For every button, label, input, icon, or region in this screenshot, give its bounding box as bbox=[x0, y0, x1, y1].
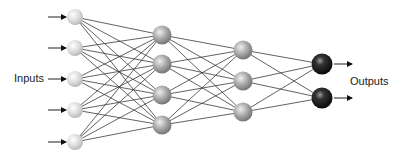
connection-edge bbox=[75, 125, 162, 142]
connection-edge bbox=[75, 35, 162, 142]
hidden-1-node-4 bbox=[153, 116, 172, 135]
hidden-2-node-1 bbox=[234, 41, 253, 60]
input-node-3 bbox=[67, 71, 83, 87]
input-node-4 bbox=[67, 102, 83, 118]
input-node-1 bbox=[67, 9, 83, 25]
io-arrows bbox=[48, 17, 352, 142]
hidden-1-node-1 bbox=[153, 26, 172, 45]
hidden-1-node-3 bbox=[153, 86, 172, 105]
hidden-2-node-2 bbox=[234, 72, 253, 91]
connection-edge bbox=[162, 35, 243, 81]
connection-edge bbox=[162, 35, 243, 50]
connection-edge bbox=[243, 64, 322, 81]
connection-edge bbox=[75, 48, 162, 64]
connection-edge bbox=[162, 35, 243, 112]
input-node-5 bbox=[67, 134, 83, 150]
input-node-2 bbox=[67, 40, 83, 56]
output-node-2 bbox=[312, 88, 333, 109]
neural-network-diagram: Inputs Outputs bbox=[0, 0, 413, 165]
connection-edge bbox=[75, 17, 162, 35]
connection-edge bbox=[75, 64, 162, 79]
connection-edges bbox=[75, 17, 322, 142]
connection-edge bbox=[162, 95, 243, 112]
neuron-nodes bbox=[67, 9, 333, 150]
hidden-2-node-3 bbox=[234, 103, 253, 122]
output-node-1 bbox=[312, 54, 333, 75]
connection-edge bbox=[75, 110, 162, 125]
inputs-label: Inputs bbox=[14, 72, 44, 84]
hidden-1-node-2 bbox=[153, 55, 172, 74]
connection-edge bbox=[243, 81, 322, 98]
outputs-label: Outputs bbox=[350, 75, 389, 87]
connection-edge bbox=[75, 48, 162, 125]
